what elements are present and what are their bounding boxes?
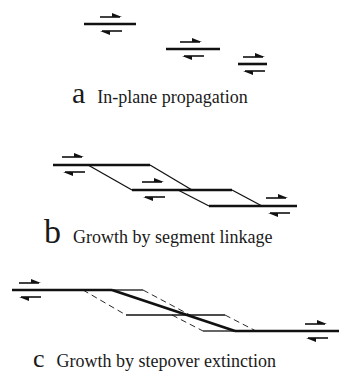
slip-arrow-right-icon: [180, 38, 202, 42]
panel-caption: In-plane propagation: [97, 88, 247, 106]
slip-arrow-right-icon: [243, 53, 265, 57]
slip-arrow-left-icon: [306, 338, 328, 342]
panel-a-label: a In-plane propagation: [72, 78, 248, 108]
fault-growth-diagram: [0, 0, 355, 385]
panel-caption: Growth by segment linkage: [73, 228, 272, 246]
fault-segment-3: [238, 53, 267, 75]
panel-c-diagram: [12, 279, 339, 342]
linkage-line: [150, 165, 192, 190]
panel-caption: Growth by stepover extinction: [57, 352, 276, 370]
panel-c-label: c Growth by stepover extinction: [33, 346, 276, 372]
slip-arrow-right-icon: [266, 194, 288, 198]
panel-b-label: b Growth by segment linkage: [44, 215, 272, 249]
through-going-fault: [112, 290, 235, 331]
linkage-line: [88, 165, 132, 190]
panel-letter: a: [72, 78, 85, 108]
slip-arrow-right-icon: [62, 153, 84, 157]
panel-letter: b: [44, 215, 61, 249]
slip-arrow-right-icon: [100, 13, 122, 17]
slip-arrow-left-icon: [143, 197, 165, 201]
inactive-linkage: [172, 315, 203, 331]
slip-arrow-left-icon: [63, 172, 85, 176]
slip-arrow-right-icon: [142, 178, 164, 182]
panel-a-diagram: [84, 13, 267, 75]
panel-letter: c: [33, 346, 45, 372]
slip-arrow-left-icon: [182, 56, 204, 60]
slip-arrow-left-icon: [19, 297, 41, 301]
slip-arrow-left-icon: [243, 71, 265, 75]
slip-arrow-right-icon: [19, 279, 41, 283]
slip-arrow-left-icon: [100, 31, 122, 35]
slip-arrow-right-icon: [305, 320, 327, 324]
linkage-line: [232, 190, 262, 206]
fault-segment-1: [84, 13, 136, 35]
linkage-line: [178, 190, 209, 206]
fault-segment-2: [166, 38, 220, 60]
panel-b-diagram: [53, 153, 297, 217]
